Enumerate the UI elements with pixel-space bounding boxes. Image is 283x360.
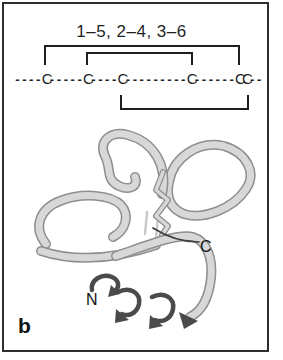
panel-letter-label: b [18, 314, 31, 338]
n-terminus-label: N [86, 291, 98, 309]
bridge-3-6-bracket [120, 95, 249, 110]
sequence-dash: - [104, 72, 111, 87]
sequence-dash: - [111, 72, 118, 87]
sequence-dash: - [200, 72, 207, 87]
sequence-dash: - [35, 72, 42, 87]
cysteine-letter: C [242, 70, 249, 87]
sequence-dash: - [97, 72, 104, 87]
sequence-dash: - [14, 72, 21, 87]
sequence-dash: - [21, 72, 28, 87]
sequence-dash: - [90, 72, 97, 87]
ribbon-loop-upper-left [103, 134, 163, 194]
sequence-dash: - [221, 72, 228, 87]
sequence-dash: - [249, 72, 256, 87]
cysteine-letter: C [83, 70, 90, 87]
sequence-dash: - [256, 72, 263, 87]
sequence-dash: - [166, 72, 173, 87]
cysteine-letter: C [118, 70, 125, 87]
sequence-dash: - [138, 72, 145, 87]
sequence-dash: - [207, 72, 214, 87]
sequence-dash: - [180, 72, 187, 87]
sequence-dash: - [76, 72, 83, 87]
figure-panel: 1–5, 2–4, 3–6 ----C-----C----C---------C… [0, 0, 283, 360]
sequence-dash: - [28, 72, 35, 87]
sequence-dash: - [214, 72, 221, 87]
c-terminus-label: C [200, 238, 212, 256]
cysteine-letter: C [187, 70, 194, 87]
sequence-dash: - [125, 72, 132, 87]
sequence-dash: - [173, 72, 180, 87]
sequence-dash: - [145, 72, 152, 87]
sequence-dash: - [228, 72, 235, 87]
cysteine-sequence-line: ----C-----C----C---------C------CC-- [14, 70, 263, 88]
sequence-dash: - [55, 72, 62, 87]
sequence-dash: - [62, 72, 69, 87]
sequence-dash: - [194, 72, 201, 87]
sequence-dash: - [152, 72, 159, 87]
protein-ribbon-diagram [16, 116, 260, 342]
ribbon-loop-upper-right [168, 145, 251, 216]
sequence-dash: - [131, 72, 138, 87]
sequence-dash: - [69, 72, 76, 87]
disulfide-connectivity-label: 1–5, 2–4, 3–6 [64, 22, 199, 42]
figure-frame: 1–5, 2–4, 3–6 ----C-----C----C---------C… [2, 2, 269, 352]
sequence-dash: - [159, 72, 166, 87]
cysteine-letter: C [42, 70, 49, 87]
helix-curl-3 [149, 295, 173, 329]
sequence-dash: - [49, 72, 56, 87]
helix-curl-2 [115, 290, 139, 323]
cysteine-letter: C [235, 70, 242, 87]
bridge-2-4-bracket [86, 52, 193, 65]
